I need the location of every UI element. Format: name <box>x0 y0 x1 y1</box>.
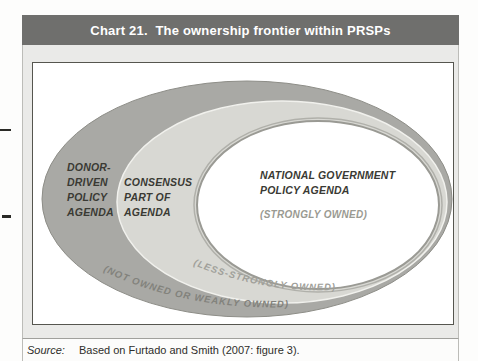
consensus-agenda-line: AGENDA <box>124 205 192 220</box>
donor-agenda-label: DONOR- DRIVEN POLICY AGENDA <box>67 160 114 220</box>
consensus-agenda-line: CONSENSUS <box>124 175 192 190</box>
donor-agenda-line: DRIVEN <box>67 175 114 190</box>
page-edge-mark-bottom <box>2 215 11 218</box>
inner-ellipse-national <box>197 121 439 289</box>
ownership-frontier-diagram: (LESS-STRONGLY OWNED) (NOT OWNED OR WEAK… <box>32 62 454 325</box>
donor-agenda-line: POLICY <box>67 190 114 205</box>
source-line: Source: Based on Furtado and Smith (2007… <box>22 338 459 361</box>
consensus-agenda-label: CONSENSUS PART OF AGENDA <box>124 175 192 220</box>
national-agenda-label: NATIONAL GOVERNMENT POLICY AGENDA <box>260 168 395 198</box>
donor-agenda-line: DONOR- <box>67 160 114 175</box>
figure-frame: Chart 21. The ownership frontier within … <box>22 15 459 360</box>
donor-agenda-line: AGENDA <box>67 205 114 220</box>
figure-title-bar: Chart 21. The ownership frontier within … <box>22 15 459 45</box>
figure-title: Chart 21. The ownership frontier within … <box>90 23 390 38</box>
source-citation: Based on Furtado and Smith (2007: figure… <box>79 344 300 356</box>
page-edge-mark-top <box>0 129 11 131</box>
national-agenda-line: POLICY AGENDA <box>260 183 395 198</box>
strongly-owned-note: (STRONGLY OWNED) <box>260 209 367 220</box>
source-prefix: Source: <box>27 344 65 356</box>
consensus-agenda-line: PART OF <box>124 190 192 205</box>
national-agenda-line: NATIONAL GOVERNMENT <box>260 168 395 183</box>
